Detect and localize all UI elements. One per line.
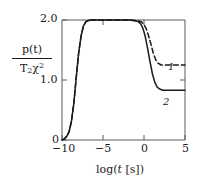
chart-figure: p(t) T2χ2 2.0 1.0 0 −10 −5 0 5 log(t [s]… — [0, 0, 201, 184]
y-axis-label-chi-exponent: 2 — [39, 61, 44, 70]
y-axis-label: p(t) T2χ2 — [6, 44, 58, 75]
series-curve-2 — [62, 20, 185, 140]
x-tick-label-minus10: −10 — [52, 143, 75, 154]
x-tick-label-0: 0 — [141, 143, 148, 154]
y-axis-label-numerator: p(t) — [6, 44, 58, 58]
y-axis-label-chi: χ — [32, 61, 39, 74]
curve-label-1: 1 — [168, 61, 174, 72]
x-axis-label-units: [s]) — [122, 163, 144, 176]
x-tick-label-5: 5 — [182, 143, 189, 154]
curve-label-2: 2 — [163, 96, 169, 107]
y-tick-label-1.0: 1.0 — [40, 74, 58, 85]
y-axis-label-fraction-bar — [12, 58, 52, 59]
x-tick-label-minus5: −5 — [95, 143, 111, 154]
x-axis-label-log: log( — [96, 163, 117, 176]
y-tick-label-2.0: 2.0 — [40, 13, 58, 24]
plot-canvas — [0, 0, 201, 184]
series-layer — [62, 20, 185, 140]
x-axis-label: log(t [s]) — [96, 163, 144, 176]
